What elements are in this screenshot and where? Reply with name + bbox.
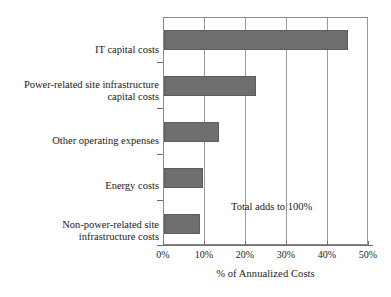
x-axis-tick — [286, 241, 287, 246]
category-label-line: IT capital costs — [3, 44, 159, 56]
category-label-non-power-related-site-infrastructure-costs: Non-power-related site infrastructure co… — [3, 219, 163, 243]
x-axis-title: % of Annualized Costs — [163, 268, 368, 279]
category-label-energy-costs: Energy costs — [3, 180, 163, 192]
x-axis-line — [157, 245, 373, 246]
x-axis-tick-label-10: 10% — [184, 249, 224, 260]
bar-other-operating-expenses — [164, 122, 219, 142]
category-label-line: Other operating expenses — [3, 135, 159, 147]
x-axis-tick — [204, 241, 205, 246]
category-label-line: Energy costs — [3, 180, 159, 192]
category-label-line: Non-power-related site — [3, 219, 159, 231]
x-axis-tick — [245, 241, 246, 246]
bar-row — [164, 74, 367, 98]
x-axis-tick-label-0: 0% — [143, 249, 183, 260]
bar-row — [164, 28, 367, 52]
category-label-line: capital costs — [3, 91, 159, 103]
category-label-it-capital-costs: IT capital costs — [3, 44, 163, 56]
bar-row — [164, 120, 367, 144]
x-axis-tick-label-40: 40% — [307, 249, 347, 260]
category-label-power-related-site-infrastructure-capital-costs: Power-related site infrastructure capita… — [3, 79, 163, 103]
category-label-other-operating-expenses: Other operating expenses — [3, 135, 163, 147]
bar-energy-costs — [164, 168, 203, 188]
chart-figure: IT capital costs Power-related site infr… — [0, 0, 391, 297]
category-label-line: infrastructure costs — [3, 231, 159, 243]
x-axis-tick-label-20: 20% — [225, 249, 265, 260]
x-axis-tick-label-50: 50% — [348, 249, 388, 260]
x-axis-tick-label-30: 30% — [266, 249, 306, 260]
bar-row — [164, 166, 367, 190]
bar-it-capital-costs — [164, 30, 348, 50]
bar-non-power-related-site-infrastructure-costs — [164, 214, 200, 234]
annotation-total: Total adds to 100% — [231, 201, 312, 212]
y-axis-category-labels: IT capital costs Power-related site infr… — [0, 17, 163, 245]
x-axis-tick — [163, 241, 164, 246]
category-label-line: Power-related site infrastructure — [3, 79, 159, 91]
x-axis-tick — [368, 241, 369, 246]
bar-row — [164, 212, 367, 236]
x-axis-tick — [327, 241, 328, 246]
bar-power-related-site-infrastructure-capital-costs — [164, 76, 256, 96]
